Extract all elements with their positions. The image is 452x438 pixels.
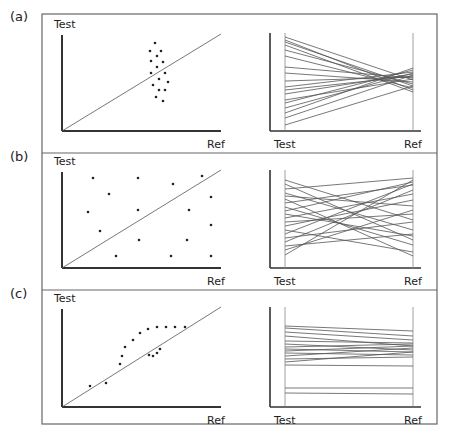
data-point [138,239,141,242]
data-point [150,60,153,63]
pair-line [285,328,413,336]
panel-label: (b) [10,149,28,164]
x-axis-label: Ref [207,138,226,151]
scatter-plot: TestRef [53,18,226,151]
data-point [148,354,151,357]
data-point [156,66,159,69]
pair-line [285,365,413,366]
data-point [124,346,127,349]
data-point [162,100,165,103]
data-point [108,193,111,196]
data-point [156,326,159,329]
data-point [162,61,165,64]
data-point [137,209,140,212]
data-point [210,255,213,258]
pair-line [285,37,413,80]
data-point [172,183,175,186]
data-point [99,230,102,233]
y-axis-label: Test [53,155,76,168]
data-point [155,96,158,99]
panel-label: (a) [10,9,28,24]
pair-line [285,230,413,252]
data-point [156,55,159,58]
pair-line [285,74,413,94]
data-point [156,352,159,355]
parallel-plot: TestRef [270,307,423,427]
data-point [210,224,213,227]
data-point [137,177,140,180]
data-point [165,326,168,329]
data-point [201,175,204,178]
figure-frame [42,14,437,424]
pair-line [285,393,413,394]
panel-a: (a)TestRefTestRef [10,9,423,151]
data-point [158,78,161,81]
data-point [152,355,155,358]
y-axis-label: Test [53,18,76,31]
data-point [159,348,162,351]
figure-canvas: (a)TestRefTestRef(b)TestRefTestRef(c)Tes… [0,0,452,438]
data-point [121,355,124,358]
scatter-plot: TestRef [53,292,226,427]
pair-line [285,214,413,222]
parallel-plot: TestRef [270,33,423,151]
data-point [167,81,170,84]
data-point [119,363,122,366]
data-point [149,50,152,53]
data-point [152,84,155,87]
data-point [105,382,108,385]
data-point [186,239,189,242]
identity-line [62,170,221,268]
ref-axis-label: Ref [404,275,423,288]
scatter-plot: TestRef [53,155,226,288]
data-point [174,326,177,329]
data-point [210,196,213,199]
pair-line [285,199,413,256]
ref-axis-label: Ref [404,414,423,427]
data-point [184,326,187,329]
ref-axis-label: Ref [404,138,423,151]
data-point [115,255,118,258]
data-point [87,211,90,214]
y-axis-label: Test [53,292,76,305]
data-point [158,89,161,92]
pair-line [285,332,413,340]
test-axis-label: Test [273,275,296,288]
data-point [188,209,191,212]
identity-line [62,34,221,131]
panel-label: (c) [10,286,27,301]
x-axis-label: Ref [207,275,226,288]
pair-line [285,184,413,240]
data-point [160,50,163,53]
data-point [132,339,135,342]
data-point [139,332,142,335]
data-point [164,89,167,92]
data-point [147,328,150,331]
panel-b: (b)TestRefTestRef [10,149,423,288]
test-axis-label: Test [273,138,296,151]
data-point [92,177,95,180]
data-point [150,72,153,75]
data-point [89,385,92,388]
data-point [154,42,157,45]
pair-line [285,86,413,125]
pair-line [285,326,413,331]
parallel-plot: TestRef [270,170,423,288]
x-axis-label: Ref [207,414,226,427]
data-point [170,255,173,258]
test-axis-label: Test [273,414,296,427]
data-point [164,72,167,75]
panel-c: (c)TestRefTestRef [10,286,423,427]
identity-line [62,307,221,407]
